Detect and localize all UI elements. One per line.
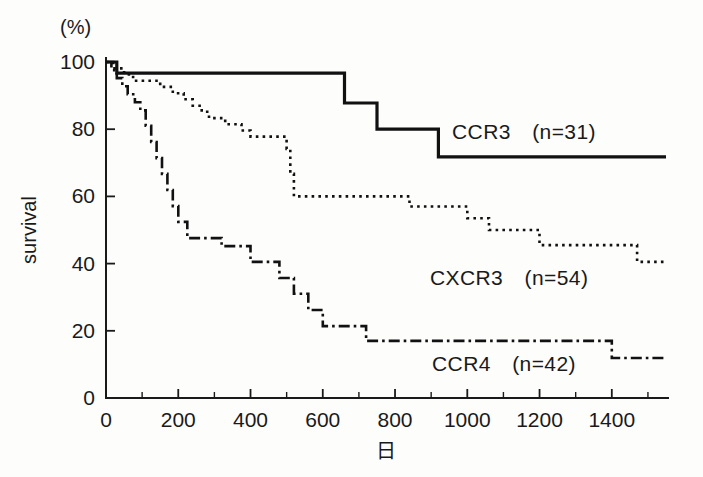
x-tick-label: 1200	[516, 408, 563, 431]
axis-group	[106, 58, 668, 398]
x-axis-title: 日	[376, 440, 396, 462]
y-tick-label: 100	[60, 50, 95, 73]
y-axis-tick-labels: 020406080100	[60, 50, 95, 409]
series-label-cxcr3: CXCR3 (n=54)	[430, 266, 588, 289]
kaplan-meier-plot: (%) survival 日 0200400600800100012001400…	[0, 0, 703, 477]
curve-cxcr3	[106, 62, 666, 262]
axis-text-group: (%) survival 日 0200400600800100012001400…	[18, 16, 635, 462]
x-tick-label: 800	[378, 408, 413, 431]
y-tick-label: 40	[72, 252, 95, 275]
x-tick-label: 600	[305, 408, 340, 431]
x-tick-label: 200	[161, 408, 196, 431]
survival-curve-figure: (%) survival 日 0200400600800100012001400…	[0, 0, 703, 477]
x-axis-ticks	[106, 389, 648, 398]
x-axis-tick-labels: 0200400600800100012001400	[100, 408, 635, 431]
x-tick-label: 1400	[588, 408, 635, 431]
y-unit-label: (%)	[60, 16, 91, 38]
curves-group	[106, 62, 666, 358]
y-tick-label: 0	[83, 386, 95, 409]
series-label-ccr4: CCR4 (n=42)	[432, 352, 576, 375]
curve-ccr4	[106, 62, 666, 358]
x-tick-label: 1000	[444, 408, 491, 431]
series-label-ccr3: CCR3 (n=31)	[452, 120, 596, 143]
plot-axes	[106, 58, 668, 398]
y-axis-title: survival	[18, 196, 40, 264]
y-axis-ticks	[106, 129, 115, 331]
x-tick-label: 0	[100, 408, 112, 431]
y-tick-label: 20	[72, 319, 95, 342]
x-tick-label: 400	[233, 408, 268, 431]
y-tick-label: 60	[72, 184, 95, 207]
y-tick-label: 80	[72, 117, 95, 140]
